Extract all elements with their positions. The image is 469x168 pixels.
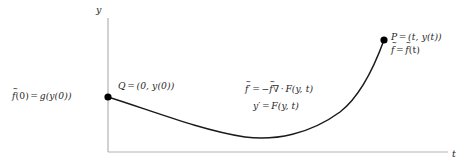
equals-sign: = xyxy=(395,44,406,55)
t-axis-label: t xyxy=(452,148,456,161)
point-marker-q xyxy=(104,93,111,100)
point-q-value: (0, y(0)) xyxy=(136,80,174,91)
density-equation-label: f′=−f∇·F(y, t) xyxy=(245,83,313,95)
y-axis-label: y xyxy=(96,4,101,17)
vector-field-expr: F(y, t) xyxy=(271,100,299,111)
point-q-name: Q xyxy=(118,80,126,91)
equals-sign: = xyxy=(126,80,137,91)
f-tilde-symbol: f xyxy=(269,83,273,95)
initial-condition-label: f(0)=g(y(0)) xyxy=(12,90,72,102)
f-tilde-symbol: f xyxy=(12,90,16,102)
initial-condition-arg: (0) xyxy=(16,90,29,101)
vector-field-expr: F(y, t) xyxy=(285,83,313,94)
equals-sign: = xyxy=(260,100,271,111)
equals-sign: = xyxy=(29,90,40,101)
state-equation-label: y′=F(y, t) xyxy=(253,100,299,112)
f-tilde-symbol: f xyxy=(405,44,409,56)
diagram-canvas xyxy=(0,0,469,168)
ftilde-arg: (t) xyxy=(409,44,420,55)
ftilde-at-t-label: f=f(t) xyxy=(391,44,420,56)
point-marker-p xyxy=(380,36,387,43)
initial-condition-rhs: g(y(0)) xyxy=(40,90,72,101)
f-tilde-symbol: f xyxy=(391,44,395,56)
point-label-q: Q=(0, y(0)) xyxy=(118,80,174,92)
point-label-p: P=(t, y(t)) xyxy=(391,31,442,43)
equals-sign: = xyxy=(251,83,262,94)
equals-sign: = xyxy=(397,31,408,42)
point-p-value: (t, y(t)) xyxy=(408,31,442,42)
f-tilde-symbol: f xyxy=(245,83,249,95)
